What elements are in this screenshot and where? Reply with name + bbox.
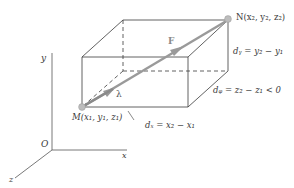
dy-label: dᵧ = y₂ − y₁: [233, 47, 283, 56]
point-n: [225, 16, 232, 23]
y-axis-label: y: [41, 54, 46, 63]
lambda-label: λ: [116, 90, 122, 99]
origin-label: O: [41, 140, 48, 149]
point-n-label: N(x₂, y₂, z₂): [236, 13, 285, 22]
point-m-label: M(x₁, y₁, z₁): [72, 113, 122, 122]
dz-label: dᵩ = z₂ − z₁ < 0: [213, 86, 281, 95]
unit-vector-lambda: [82, 89, 113, 107]
force-label: F: [168, 37, 174, 46]
z-axis-line: [15, 150, 52, 178]
point-m: [79, 104, 86, 111]
force-vector: [82, 20, 228, 107]
dx-label: dₓ = x₂ − x₁: [145, 121, 195, 130]
dx-leader-line: [128, 111, 134, 120]
x-axis-label: x: [122, 152, 127, 160]
diagram-canvas: y x z O M(x₁, y₁, z₁) N(x₂, y₂, z₂) F λ …: [0, 0, 294, 188]
z-axis-label: z: [9, 176, 13, 184]
